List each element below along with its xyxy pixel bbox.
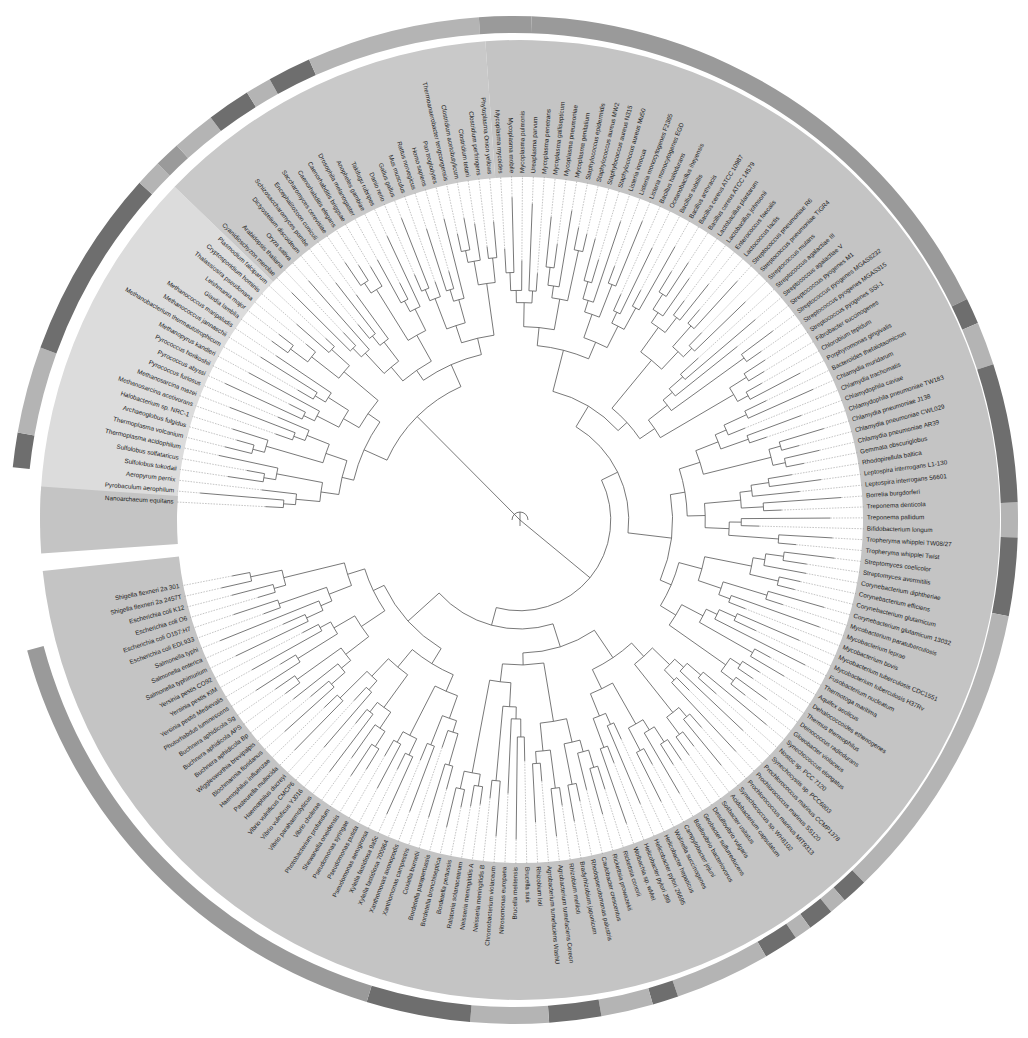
leader-line	[321, 758, 352, 801]
leader-line	[737, 305, 789, 346]
leader-line	[621, 206, 661, 294]
ring-segment	[479, 16, 532, 34]
leader-line	[494, 836, 496, 863]
leader-line	[672, 226, 700, 271]
ring-segment	[648, 980, 678, 1004]
leader-line	[807, 564, 860, 572]
leader-line	[767, 700, 798, 723]
leader-line	[345, 224, 370, 267]
leader-line	[805, 665, 827, 676]
leader-line	[364, 213, 399, 283]
leader-line	[626, 823, 633, 844]
leader-line	[689, 238, 717, 278]
leader-line	[394, 200, 401, 218]
leader-line	[605, 789, 624, 848]
leader-line	[279, 750, 294, 766]
leader-line	[318, 242, 357, 295]
leader-line	[795, 590, 854, 605]
leader-line	[689, 690, 762, 764]
leader-line	[264, 732, 285, 750]
leader-line	[824, 421, 850, 429]
leader-line	[229, 337, 261, 357]
leader-line	[192, 416, 233, 429]
leader-line	[745, 390, 839, 428]
leader-line	[501, 177, 505, 249]
leader-line	[700, 258, 744, 309]
ring-segment	[599, 988, 653, 1016]
leader-line	[574, 821, 581, 858]
leader-line	[767, 725, 785, 740]
leader-line	[409, 748, 443, 846]
leader-line	[736, 751, 755, 771]
leader-line	[284, 270, 343, 333]
leader-line	[761, 323, 802, 351]
leader-line	[821, 474, 861, 479]
leader-line	[355, 218, 378, 260]
leader-line	[804, 453, 857, 464]
leader-line	[292, 262, 308, 281]
leaf-label: Brucella melitensis	[511, 867, 519, 920]
leader-line	[770, 658, 821, 686]
leader-line	[640, 804, 654, 837]
leader-line	[824, 607, 850, 615]
leader-line	[419, 817, 429, 848]
leader-line	[800, 360, 825, 373]
leader-line	[773, 314, 796, 331]
leader-line	[721, 765, 738, 786]
leader-line	[237, 689, 275, 716]
leader-line	[615, 198, 641, 267]
leader-line	[182, 459, 247, 471]
leader-line	[339, 769, 366, 813]
leader-line	[300, 255, 358, 324]
leader-line	[261, 293, 296, 324]
leader-line	[231, 690, 256, 706]
leader-line	[241, 319, 272, 341]
leader-line	[358, 788, 377, 823]
leader-line	[702, 728, 747, 779]
leader-line	[447, 184, 458, 234]
leader-line	[336, 229, 359, 265]
leader-line	[223, 346, 298, 390]
leader-line	[185, 588, 222, 596]
leader-line	[675, 221, 690, 247]
leader-line	[312, 772, 329, 795]
leader-line	[681, 760, 712, 806]
leader-line	[536, 822, 538, 863]
leader-line	[208, 375, 225, 383]
leader-line	[215, 633, 303, 679]
leader-line	[201, 641, 220, 649]
leader-line	[756, 631, 832, 666]
leader-line	[425, 189, 449, 271]
leader-line	[250, 699, 293, 733]
leader-line	[599, 191, 620, 260]
leader-line	[472, 805, 480, 861]
leader-line	[177, 491, 200, 493]
leader-line	[213, 366, 290, 405]
leader-line	[378, 814, 387, 833]
leader-line	[813, 380, 834, 389]
leader-line	[759, 526, 864, 529]
leader-line	[512, 176, 513, 197]
ring-segment	[1001, 502, 1018, 537]
leader-line	[451, 807, 461, 857]
leader-line	[542, 781, 549, 863]
leader-line	[186, 437, 225, 447]
leader-line	[187, 595, 232, 607]
leader-line	[440, 827, 447, 855]
leader-line	[193, 615, 233, 628]
leader-line	[199, 396, 230, 408]
leader-line	[182, 576, 232, 586]
leader-line	[595, 188, 609, 239]
leader-line	[429, 789, 446, 852]
leader-line	[841, 496, 863, 498]
leader-line	[806, 573, 858, 583]
leaf-label: Brucella suis	[524, 867, 532, 903]
leader-line	[235, 328, 277, 356]
leader-line	[679, 793, 693, 817]
leader-line	[782, 507, 864, 510]
leader-line	[189, 427, 237, 440]
leader-line	[272, 708, 325, 758]
leader-line	[220, 670, 252, 688]
leader-line	[579, 183, 588, 228]
leader-line	[743, 730, 770, 756]
